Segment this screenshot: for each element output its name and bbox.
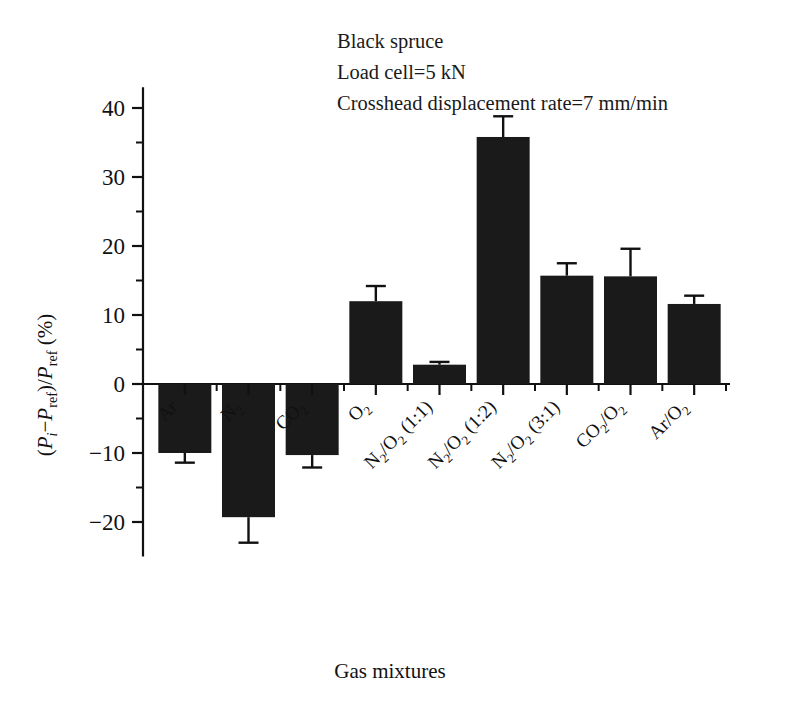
annotation-line-3: Crosshead displacement rate=7 mm/min [337, 92, 668, 115]
x-axis-title: Gas mixtures [334, 659, 445, 683]
bar [222, 384, 275, 517]
x-category-label: N2/O2 (1:1) [360, 396, 439, 475]
y-tick-label: −10 [89, 441, 125, 466]
x-category-label: O2 [344, 396, 376, 428]
x-category-label: Ar/O2 [644, 396, 694, 446]
y-tick-label: 10 [102, 303, 125, 328]
x-category-label: CO2/O2 [571, 396, 630, 455]
bar [349, 301, 402, 384]
chart-svg: Black spruce Load cell=5 kN Crosshead di… [0, 0, 811, 709]
bar [604, 276, 657, 384]
annotation-line-2: Load cell=5 kN [337, 61, 466, 83]
y-tick-label: 40 [102, 96, 125, 121]
plot-area: −20−10010203040ArN2CO2O2N2/O2 (1:1)N2/O2… [89, 87, 730, 556]
x-category-label: N2/O2 (1:2) [423, 396, 502, 475]
y-axis-title: (Pi−Pref)/Pref (%) [33, 314, 60, 457]
svg-text:(Pi−Pref)/Pref (%): (Pi−Pref)/Pref (%) [33, 314, 60, 457]
annotation-block: Black spruce Load cell=5 kN Crosshead di… [337, 30, 668, 115]
y-tick-label: −20 [89, 510, 125, 535]
annotation-line-1: Black spruce [337, 30, 443, 53]
bar [668, 304, 721, 384]
y-tick-label: 20 [102, 234, 125, 259]
bar [540, 276, 593, 384]
x-category-label: N2/O2 (3:1) [487, 396, 566, 475]
bar [477, 137, 530, 384]
y-tick-label: 30 [102, 165, 125, 190]
bar-chart-figure: Black spruce Load cell=5 kN Crosshead di… [0, 0, 811, 709]
bar [413, 365, 466, 384]
y-tick-label: 0 [114, 372, 126, 397]
